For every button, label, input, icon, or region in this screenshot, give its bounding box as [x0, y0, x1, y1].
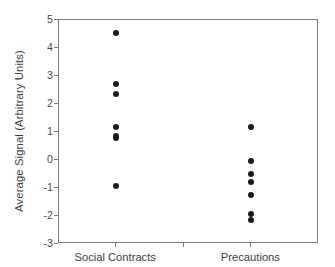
- data-point: [113, 30, 119, 36]
- data-point: [248, 192, 254, 198]
- y-axis-tick: 4: [0, 40, 58, 54]
- y-axis-tick: 0: [0, 152, 58, 166]
- y-axis-tick: -2: [0, 208, 58, 222]
- x-axis-tick-mark: [183, 243, 184, 247]
- data-point: [248, 124, 254, 130]
- data-point: [113, 124, 119, 130]
- data-point: [248, 158, 254, 164]
- x-axis-tick-mark: [115, 243, 116, 247]
- x-axis-category-label-2: Precautions: [221, 250, 280, 264]
- y-axis-tick: 2: [0, 96, 58, 110]
- y-axis-tick: 5: [0, 12, 58, 26]
- y-axis-tick: -1: [0, 180, 58, 194]
- y-axis-tick: 3: [0, 68, 58, 82]
- data-point: [113, 183, 119, 189]
- data-point: [113, 135, 119, 141]
- x-axis-tick-mark: [250, 243, 251, 247]
- scatter-plot-figure: Average Signal (Arbitrary Units) 543210-…: [0, 0, 335, 267]
- data-point: [248, 217, 254, 223]
- y-axis-tick: -3: [0, 236, 58, 250]
- data-point: [113, 91, 119, 97]
- x-axis-category-label-1: Social Contracts: [74, 250, 155, 264]
- data-point: [248, 171, 254, 177]
- data-point: [248, 179, 254, 185]
- plot-area: [58, 19, 318, 243]
- data-point: [113, 81, 119, 87]
- y-axis-tick: 1: [0, 124, 58, 138]
